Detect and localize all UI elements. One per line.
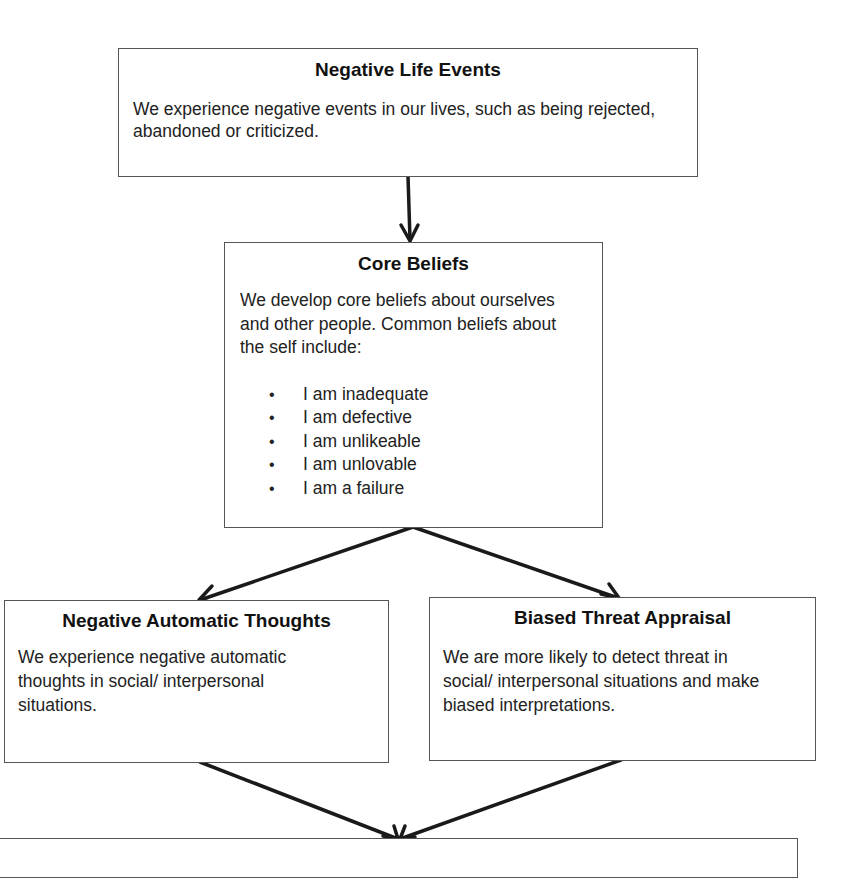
node-body: We develop core beliefs about ourselves … — [240, 289, 582, 360]
node-biased-threat-appraisal: Biased Threat Appraisal We are more like… — [429, 597, 816, 761]
node-core-beliefs: Core Beliefs We develop core beliefs abo… — [224, 242, 603, 528]
arrow-automatic-thoughts-to-bottom — [200, 762, 398, 839]
node-title: Core Beliefs — [225, 253, 602, 275]
node-bottom-box — [0, 838, 798, 878]
arrow-threat-appraisal-to-bottom — [400, 760, 621, 839]
node-title: Negative Life Events — [119, 59, 697, 81]
node-body: We experience negative automatic thought… — [18, 645, 328, 717]
list-item: I am unlovable — [255, 453, 602, 477]
list-item: I am unlikeable — [255, 430, 602, 454]
arrow-life-events-to-core-beliefs — [401, 176, 418, 241]
list-item: I am inadequate — [255, 383, 602, 407]
arrow-core-beliefs-to-threat-appraisal — [413, 527, 619, 598]
core-beliefs-list: I am inadequate I am defective I am unli… — [255, 383, 602, 501]
arrow-core-beliefs-to-automatic-thoughts — [199, 527, 413, 603]
node-body: We experience negative events in our liv… — [133, 98, 657, 142]
node-negative-automatic-thoughts: Negative Automatic Thoughts We experienc… — [4, 600, 389, 763]
node-title: Negative Automatic Thoughts — [5, 610, 388, 632]
node-negative-life-events: Negative Life Events We experience negat… — [118, 48, 698, 177]
list-item: I am a failure — [255, 477, 602, 501]
node-body: We are more likely to detect threat in s… — [443, 645, 775, 717]
node-title: Biased Threat Appraisal — [430, 607, 815, 629]
list-item: I am defective — [255, 406, 602, 430]
